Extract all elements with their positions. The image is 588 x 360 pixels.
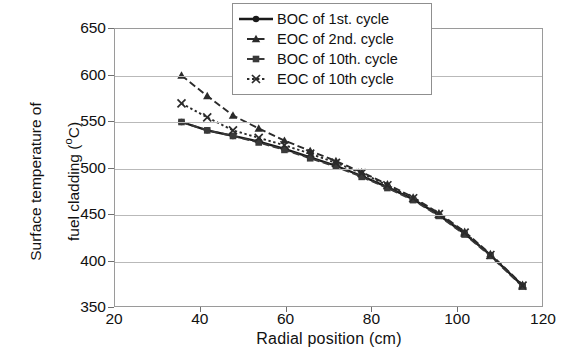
data-marker (203, 113, 211, 121)
data-marker (253, 56, 260, 63)
legend-key-cross-icon (238, 70, 274, 88)
chart-figure: Surface temperature of fuel cladding (oC… (0, 0, 588, 360)
gridline (115, 122, 542, 123)
legend-key-triangle-icon (238, 30, 274, 48)
x-tick-label: 100 (437, 310, 477, 328)
x-tick-label: 120 (523, 310, 563, 328)
x-tick-label: 40 (180, 310, 220, 328)
legend-label: BOC of 10th. cycle (274, 51, 398, 67)
legend-item[interactable]: BOC of 10th. cycle (238, 49, 425, 69)
y-tick-mark (108, 307, 114, 308)
legend-label: BOC of 1st. cycle (274, 11, 389, 27)
legend: BOC of 1st. cycleEOC of 2nd. cycleBOC of… (232, 3, 432, 95)
data-marker (177, 99, 185, 107)
x-axis-title: Radial position (cm) (114, 330, 544, 348)
gridline (115, 215, 542, 216)
y-tick-label: 600 (52, 66, 106, 84)
x-tick-label: 20 (94, 310, 134, 328)
y-tick-label: 450 (52, 205, 106, 223)
legend-key-circle-icon (238, 10, 274, 28)
series-3 (178, 119, 526, 290)
legend-item[interactable]: EOC of 2nd. cycle (238, 29, 425, 49)
x-tick-label: 80 (351, 310, 391, 328)
legend-item[interactable]: EOC of 10th cycle (238, 69, 425, 89)
series-1 (178, 119, 525, 289)
y-tick-label: 500 (52, 159, 106, 177)
gridline (115, 262, 542, 263)
y-tick-label: 550 (52, 112, 106, 130)
data-marker (203, 92, 211, 99)
series-line (182, 76, 523, 285)
y-tick-label: 400 (52, 252, 106, 270)
y-tick-label: 650 (52, 19, 106, 37)
legend-key-square-icon (238, 50, 274, 68)
gridline (115, 169, 542, 170)
legend-item[interactable]: BOC of 1st. cycle (238, 9, 425, 29)
series-2 (177, 71, 526, 288)
legend-label: EOC of 10th cycle (274, 71, 394, 87)
data-marker (229, 111, 237, 118)
data-marker (253, 16, 259, 22)
data-marker (204, 127, 211, 134)
data-marker (255, 124, 263, 131)
x-tick-label: 60 (266, 310, 306, 328)
legend-label: EOC of 2nd. cycle (274, 31, 394, 47)
